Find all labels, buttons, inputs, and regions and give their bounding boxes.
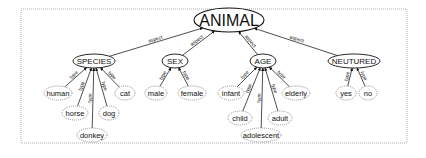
edge-aspect-neutured [254, 28, 337, 55]
category-node-sex: SEX [162, 54, 188, 68]
concept-diagram: aspectaspectaspectaspecttypetypetypetype… [0, 0, 426, 158]
leaf-node-yes-label: yes [340, 89, 352, 98]
leaf-node-male-label: male [148, 89, 164, 98]
category-node-species: SPECIES [73, 54, 115, 68]
leaf-node-donkey-label: donkey [80, 131, 104, 140]
root-node-animal: ANIMAL [194, 8, 264, 32]
leaf-node-horse-label: horse [66, 109, 85, 118]
category-node-neutured: NEUTURED [328, 54, 380, 68]
edge-label: type [107, 70, 118, 81]
leaf-node-male: male [145, 86, 167, 100]
leaf-node-cat-label: cat [120, 89, 131, 98]
leaf-node-elderly: elderly [282, 86, 310, 100]
edge-label: type [182, 70, 192, 81]
leaf-node-dog-label: dog [103, 109, 116, 118]
leaf-node-no-label: no [364, 89, 372, 98]
leaf-node-infant-label: infant [222, 89, 241, 98]
edge-label: type [157, 69, 167, 80]
leaf-node-horse: horse [62, 106, 88, 120]
leaf-node-infant: infant [218, 86, 244, 100]
leaf-node-child-label: child [232, 114, 247, 123]
edge-label: type [255, 93, 261, 103]
edge-label: type [276, 69, 287, 80]
edge-label: type [244, 82, 253, 93]
category-node-neutured-label: NEUTURED [332, 57, 377, 66]
leaf-node-cat: cat [115, 86, 135, 100]
root-node-animal-label: ANIMAL [199, 12, 259, 29]
category-node-species-label: SPECIES [77, 57, 112, 66]
leaf-node-female: female [178, 86, 206, 100]
leaf-node-adult-label: adult [272, 114, 289, 123]
category-node-age-label: AGE [255, 57, 272, 66]
leaf-node-yes: yes [336, 86, 356, 100]
leaf-node-human: human [44, 86, 72, 100]
leaf-node-elderly-label: elderly [285, 89, 307, 98]
leaf-node-adolescent: adolescent [241, 128, 281, 142]
category-node-sex-label: SEX [167, 57, 184, 66]
leaf-node-dog: dog [99, 106, 119, 120]
edge-label: type [77, 80, 86, 91]
leaf-node-donkey: donkey [77, 128, 107, 142]
nodes-layer: ANIMALSPECIESSEXAGENEUTUREDhumanhorsedon… [44, 8, 380, 142]
category-node-age: AGE [250, 54, 276, 68]
edge-label: type [86, 93, 92, 103]
edge-label: type [360, 70, 369, 81]
leaf-node-adult: adult [268, 111, 292, 125]
leaf-node-no: no [359, 86, 377, 100]
edge-label: type [239, 69, 250, 80]
leaf-node-female-label: female [181, 89, 204, 98]
leaf-node-human-label: human [47, 89, 70, 98]
leaf-node-child: child [228, 111, 252, 125]
edge-label: type [101, 81, 109, 92]
edge-label: type [68, 69, 79, 80]
edge-label: type [271, 83, 280, 94]
leaf-node-adolescent-label: adolescent [243, 131, 280, 140]
